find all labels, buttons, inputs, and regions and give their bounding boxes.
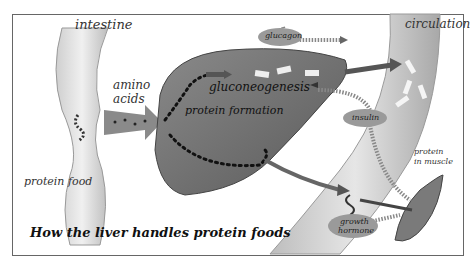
label-protein-formation: protein formation (185, 104, 284, 117)
label-insulin: insulin (352, 113, 379, 122)
label-hormone: hormone (338, 226, 374, 235)
label-growth: growth (340, 217, 369, 226)
amino-acids-arrow (104, 105, 162, 140)
label-intestine: intestine (75, 17, 133, 32)
label-amino: amino (113, 78, 150, 92)
label-glucagon: glucagon (265, 31, 302, 40)
liver-shape (155, 49, 347, 195)
label-acids: acids (113, 92, 145, 106)
label-gluconeogenesis: gluconeogenesis (209, 80, 310, 94)
intestine-shape (56, 28, 108, 245)
label-circulation: circulation (405, 17, 470, 31)
label-protein: protein (414, 147, 443, 156)
label-in-muscle: in muscle (414, 157, 453, 166)
diagram-title: How the liver handles protein foods (30, 225, 291, 240)
label-protein-food: protein food (24, 175, 92, 188)
